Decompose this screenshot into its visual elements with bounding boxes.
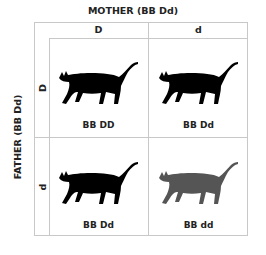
genotype-label: BB dd	[149, 220, 248, 230]
row-header-D: D	[34, 38, 49, 137]
column-header-d: d	[149, 22, 248, 38]
column-header-D: D	[49, 22, 148, 38]
genotype-label: BB Dd	[149, 120, 248, 130]
genotype-label: BB DD	[49, 120, 148, 130]
cell-Dd-bottom: BB Dd	[49, 138, 148, 237]
row-header-d: d	[34, 138, 49, 236]
black-cat-icon	[157, 60, 239, 106]
cell-Dd-top: BB Dd	[149, 38, 248, 137]
cell-dd: BB dd	[149, 138, 248, 237]
cell-DD: BB DD	[49, 38, 148, 137]
black-cat-icon	[57, 160, 139, 206]
father-label: FATHER (BB Dd)	[12, 95, 23, 180]
grey-cat-icon	[157, 160, 239, 206]
black-cat-icon	[57, 60, 139, 106]
mother-label: MOTHER (BB Dd)	[0, 5, 266, 16]
genotype-label: BB Dd	[49, 220, 148, 230]
